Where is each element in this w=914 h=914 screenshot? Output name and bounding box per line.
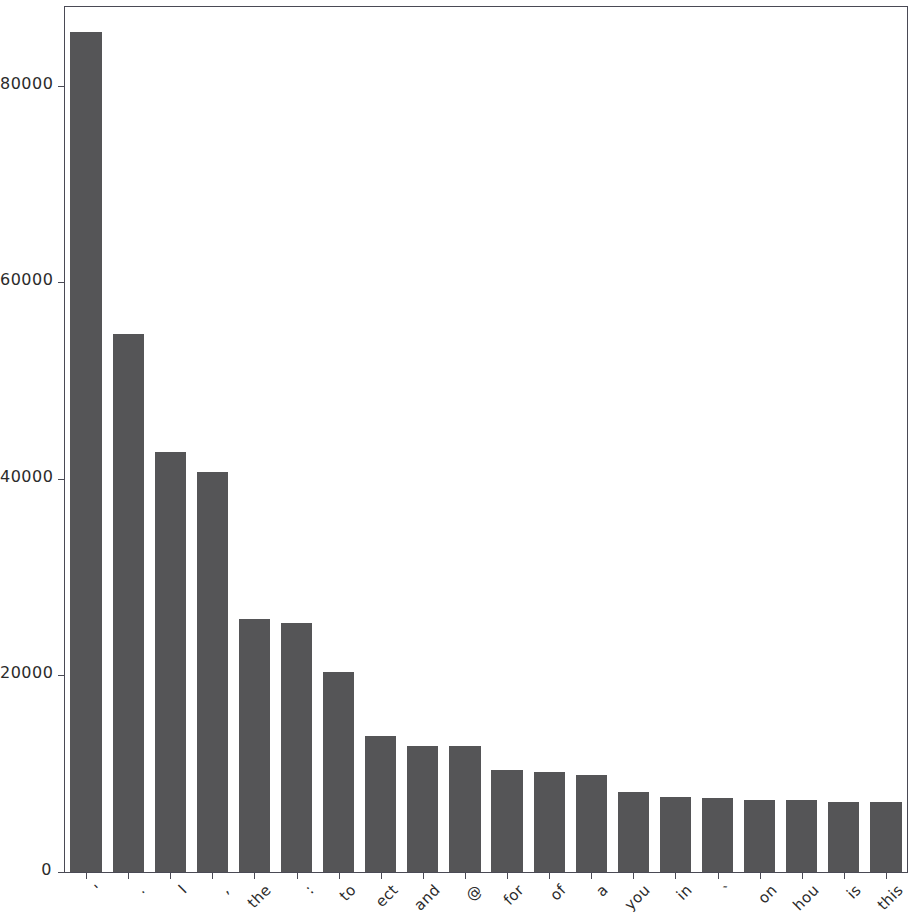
x-tick-mark	[633, 872, 634, 879]
x-tick-mark	[381, 872, 382, 879]
x-tick-mark	[254, 872, 255, 879]
y-tick-mark	[58, 282, 65, 283]
y-tick-mark	[58, 479, 65, 480]
bar	[449, 746, 480, 872]
x-tick-mark	[170, 872, 171, 879]
bar	[660, 797, 691, 872]
x-tick-mark	[212, 872, 213, 879]
y-tick-label: 80000	[0, 74, 52, 93]
x-tick-mark	[760, 872, 761, 879]
bar	[618, 792, 649, 872]
x-tick-mark	[675, 872, 676, 879]
x-tick-mark	[886, 872, 887, 879]
x-tick-mark	[339, 872, 340, 879]
x-tick-mark	[423, 872, 424, 879]
bar	[870, 802, 901, 872]
bar	[828, 802, 859, 872]
y-tick-label: 40000	[0, 467, 52, 486]
bar	[744, 800, 775, 872]
x-tick-mark	[591, 872, 592, 879]
y-tick-mark	[58, 872, 65, 873]
bar	[197, 472, 228, 872]
bar	[576, 775, 607, 872]
y-tick-mark	[58, 675, 65, 676]
y-tick-label: 60000	[0, 270, 52, 289]
bar	[323, 672, 354, 872]
x-tick-mark	[86, 872, 87, 879]
y-tick-label: 0	[0, 860, 52, 879]
plot-axes-frame	[64, 6, 908, 873]
x-tick-mark	[465, 872, 466, 879]
bar	[281, 623, 312, 872]
bar	[491, 770, 522, 872]
plot-area	[65, 7, 907, 872]
bar	[702, 798, 733, 872]
y-tick-mark	[58, 86, 65, 87]
bar	[365, 736, 396, 872]
bar	[534, 772, 565, 872]
x-tick-mark	[718, 872, 719, 879]
x-tick-label: '	[0, 881, 107, 914]
bar	[786, 800, 817, 872]
bar	[70, 32, 101, 872]
x-tick-mark	[802, 872, 803, 879]
bar	[407, 746, 438, 872]
x-tick-mark	[549, 872, 550, 879]
x-tick-mark	[507, 872, 508, 879]
bar	[155, 452, 186, 872]
bar-chart-figure: 020000400006000080000 '.I,the:toectand@f…	[0, 0, 914, 914]
bar	[113, 334, 144, 872]
x-tick-mark	[128, 872, 129, 879]
bar	[239, 619, 270, 872]
x-tick-mark	[297, 872, 298, 879]
y-tick-label: 20000	[0, 663, 52, 682]
x-tick-mark	[844, 872, 845, 879]
